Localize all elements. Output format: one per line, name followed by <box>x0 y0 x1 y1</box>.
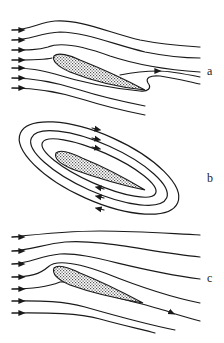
panel-label-a: a <box>207 64 213 78</box>
airfoil-c <box>54 266 143 303</box>
inflow-arrows-a <box>12 30 22 88</box>
airfoil-flow-diagram: a b <box>0 0 224 343</box>
panel-b: b <box>7 103 213 233</box>
panel-c: c <box>12 231 212 333</box>
streamlines-c <box>12 231 200 333</box>
inflow-arrows-c <box>12 237 22 313</box>
streamlines-a <box>12 21 200 115</box>
panel-label-c: c <box>207 271 212 285</box>
panel-a: a <box>12 21 213 115</box>
panel-label-b: b <box>207 171 213 185</box>
